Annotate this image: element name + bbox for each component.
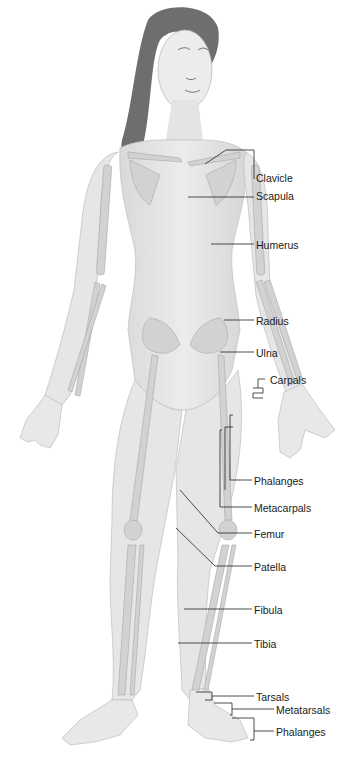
head xyxy=(158,30,212,110)
label-phalanges-hand: Phalanges xyxy=(254,475,304,487)
label-fibula: Fibula xyxy=(254,604,283,616)
label-clavicle: Clavicle xyxy=(256,172,293,184)
left-hand xyxy=(278,384,335,458)
skeleton-diagram: Clavicle Scapula Humerus Radius Ulna Car… xyxy=(0,0,342,757)
label-femur: Femur xyxy=(254,528,284,540)
right-foot xyxy=(62,700,138,745)
label-patella: Patella xyxy=(254,561,286,573)
label-humerus: Humerus xyxy=(256,239,299,251)
label-phalanges-foot: Phalanges xyxy=(276,726,326,738)
label-scapula: Scapula xyxy=(256,190,294,202)
label-metatarsals: Metatarsals xyxy=(276,704,330,716)
label-tarsals: Tarsals xyxy=(256,691,289,703)
neck xyxy=(166,100,203,140)
right-hand xyxy=(20,395,62,448)
label-carpals: Carpals xyxy=(270,374,306,386)
label-tibia: Tibia xyxy=(254,638,276,650)
label-ulna: Ulna xyxy=(256,347,278,359)
label-radius: Radius xyxy=(256,315,289,327)
label-metacarpals: Metacarpals xyxy=(254,502,311,514)
